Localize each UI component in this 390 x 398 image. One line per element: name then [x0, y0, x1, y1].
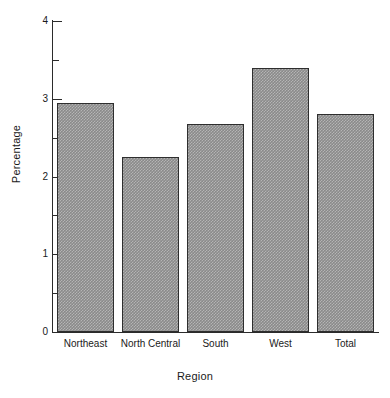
y-axis-tick-label: 0 — [24, 327, 48, 337]
y-axis-title: Percentage — [10, 104, 22, 204]
x-axis-line — [52, 332, 379, 333]
y-axis-tick-label: 1 — [24, 249, 48, 259]
bar — [57, 103, 114, 332]
y-axis-tick-label: 3 — [24, 94, 48, 104]
bar — [122, 157, 179, 332]
y-axis-tick-label: 2 — [24, 172, 48, 182]
plot-area — [53, 21, 378, 332]
y-axis-major-tick — [53, 332, 62, 333]
x-axis-tick-label: Total — [303, 338, 388, 350]
y-axis-tick-label: 4 — [24, 16, 48, 26]
x-axis-title: Region — [0, 370, 390, 382]
bar-chart: 01234 NortheastNorth CentralSouthWestTot… — [0, 0, 390, 398]
bar — [317, 114, 374, 332]
bar — [187, 124, 244, 332]
bar — [252, 68, 309, 332]
